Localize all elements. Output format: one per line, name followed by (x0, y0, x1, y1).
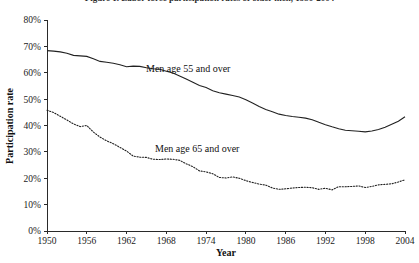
y-tick-label: 30% (24, 147, 42, 157)
axis-lines (47, 20, 405, 231)
x-tick-label: 1974 (197, 236, 216, 246)
y-tick-label: 80% (24, 15, 42, 25)
x-tick-label: 1956 (77, 236, 96, 246)
y-tick-label: 40% (24, 121, 42, 131)
x-tick-label: 1986 (276, 236, 295, 246)
y-tick-label: 70% (24, 42, 42, 52)
y-tick-label: 10% (24, 200, 42, 210)
y-axis-title: Participation rate (4, 88, 15, 164)
x-axis-ticks: 1950195619621968197419801986199219982004 (38, 231, 415, 246)
figure-header-text: Figure 1. Labor force participation rate… (85, 0, 335, 3)
x-tick-label: 1980 (236, 236, 255, 246)
chart-container: Figure 1. Labor force participation rate… (0, 0, 419, 263)
x-tick-label: 2004 (396, 236, 415, 246)
x-tick-label: 1992 (316, 236, 335, 246)
figure-header-clipped: Figure 1. Labor force participation rate… (0, 0, 419, 9)
series-label-men-65-and-over: Men age 65 and over (155, 143, 240, 154)
y-tick-label: 60% (24, 68, 42, 78)
y-axis-ticks: 0%10%20%30%40%50%60%70%80% (24, 15, 47, 236)
x-tick-label: 1968 (157, 236, 176, 246)
y-tick-label: 20% (24, 174, 42, 184)
x-axis-title: Year (216, 247, 237, 258)
y-tick-label: 50% (24, 95, 42, 105)
line-chart-plot: 0%10%20%30%40%50%60%70%80% 1950195619621… (0, 0, 419, 263)
x-tick-label: 1998 (356, 236, 375, 246)
x-tick-label: 1950 (38, 236, 57, 246)
x-tick-label: 1962 (117, 236, 136, 246)
y-tick-label: 0% (28, 226, 41, 236)
series-label-men-55-and-over: Men age 55 and over (146, 63, 231, 74)
